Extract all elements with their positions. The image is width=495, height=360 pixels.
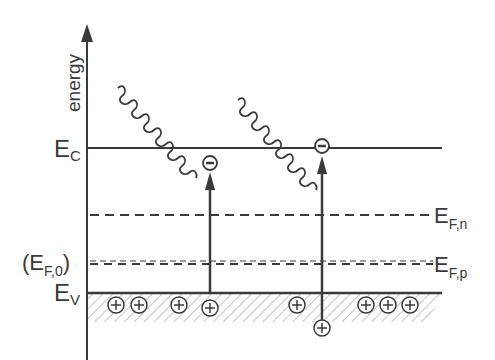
label-ec: EC	[54, 135, 81, 164]
photon-wave-1	[118, 86, 197, 178]
hole	[402, 297, 418, 313]
hole	[380, 297, 396, 313]
hole-1	[202, 300, 218, 316]
axis-label: energy	[63, 53, 84, 112]
energy-axis-arrow-icon	[81, 24, 93, 42]
label-efp: EF,p	[434, 252, 468, 281]
electron-2	[315, 139, 329, 153]
label-ev: EV	[54, 279, 80, 308]
hole	[358, 297, 374, 313]
arrowhead-1-icon	[205, 172, 215, 190]
label-efn: EF,n	[434, 203, 467, 232]
photon-wave-2	[238, 98, 317, 190]
arrowhead-2-icon	[317, 156, 327, 174]
hole-2	[314, 320, 330, 336]
band-diagram: energy EC EF,n EF,p (EF,0) EV	[0, 0, 495, 360]
hole	[108, 297, 124, 313]
hole	[131, 297, 147, 313]
hole	[171, 297, 187, 313]
hole	[289, 297, 305, 313]
label-ef0: (EF,0)	[22, 250, 70, 279]
electron-1	[203, 156, 217, 170]
